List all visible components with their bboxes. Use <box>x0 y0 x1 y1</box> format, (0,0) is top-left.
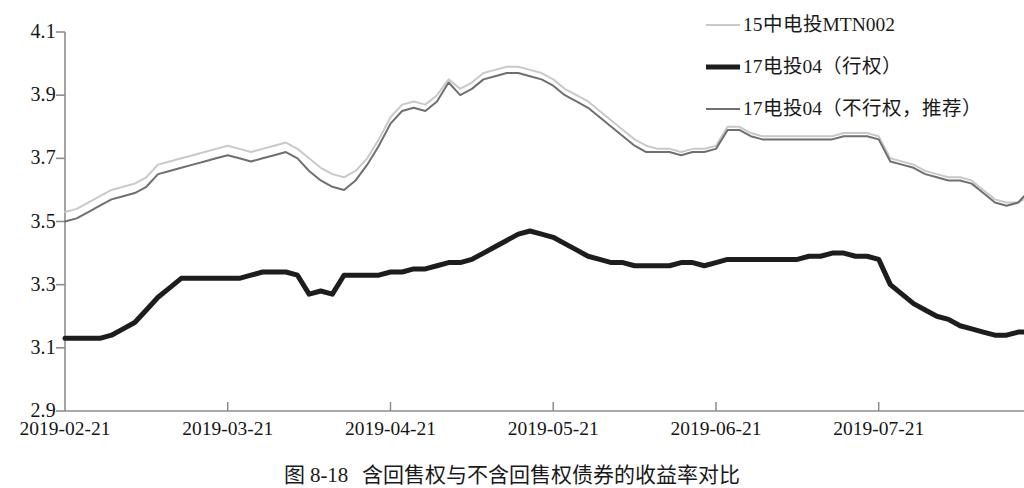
y-axis-tick-label: 3.5 <box>10 211 56 231</box>
x-axis-tick-label: 2019-03-21 <box>182 418 273 440</box>
legend-label: 17电投04（不行权，推荐） <box>743 98 982 120</box>
line-swatch-icon <box>706 19 740 31</box>
figure-caption-text: 含回售权与不含回售权债券的收益率对比 <box>362 463 740 487</box>
line-swatch-icon <box>706 103 740 115</box>
x-axis-tick-label: 2019-02-21 <box>20 418 111 440</box>
y-axis-tick-label: 2.9 <box>10 400 56 420</box>
y-axis-tick-label: 3.1 <box>10 337 56 357</box>
x-axis-tick-label: 2019-06-21 <box>670 418 761 440</box>
x-axis-tick-label: 2019-04-21 <box>345 418 436 440</box>
legend-item-series-2[interactable]: 17电投04（行权） <box>706 46 1024 88</box>
x-axis-tick-label: 2019-07-21 <box>833 418 924 440</box>
y-axis-tick-marks <box>56 32 65 411</box>
line-swatch-icon <box>706 61 740 73</box>
legend-item-series-1[interactable]: 15中电投MTN002 <box>706 4 1024 46</box>
legend-item-series-3[interactable]: 17电投04（不行权，推荐） <box>706 88 1024 130</box>
y-axis-tick-label: 4.1 <box>10 21 56 41</box>
x-axis-labels: 2019-02-212019-03-212019-04-212019-05-21… <box>0 418 1024 448</box>
legend-label: 17电投04（行权） <box>743 56 902 78</box>
y-axis-tick-label: 3.3 <box>10 274 56 294</box>
figure-caption: 图 8-18含回售权与不含回售权债券的收益率对比 <box>0 462 1024 488</box>
y-axis-tick-label: 3.7 <box>10 147 56 167</box>
x-axis-tick-marks <box>228 402 879 411</box>
y-axis-labels: 2.93.13.33.53.73.94.1 <box>0 0 56 483</box>
figure-number: 图 8-18 <box>284 463 349 487</box>
x-axis-tick-label: 2019-05-21 <box>508 418 599 440</box>
y-axis-tick-label: 3.9 <box>10 84 56 104</box>
series-line-2 <box>65 231 1024 338</box>
legend-label: 15中电投MTN002 <box>743 14 895 36</box>
chart-legend: 15中电投MTN002 17电投04（行权） 17电投04（不行权，推荐） <box>706 4 1024 130</box>
